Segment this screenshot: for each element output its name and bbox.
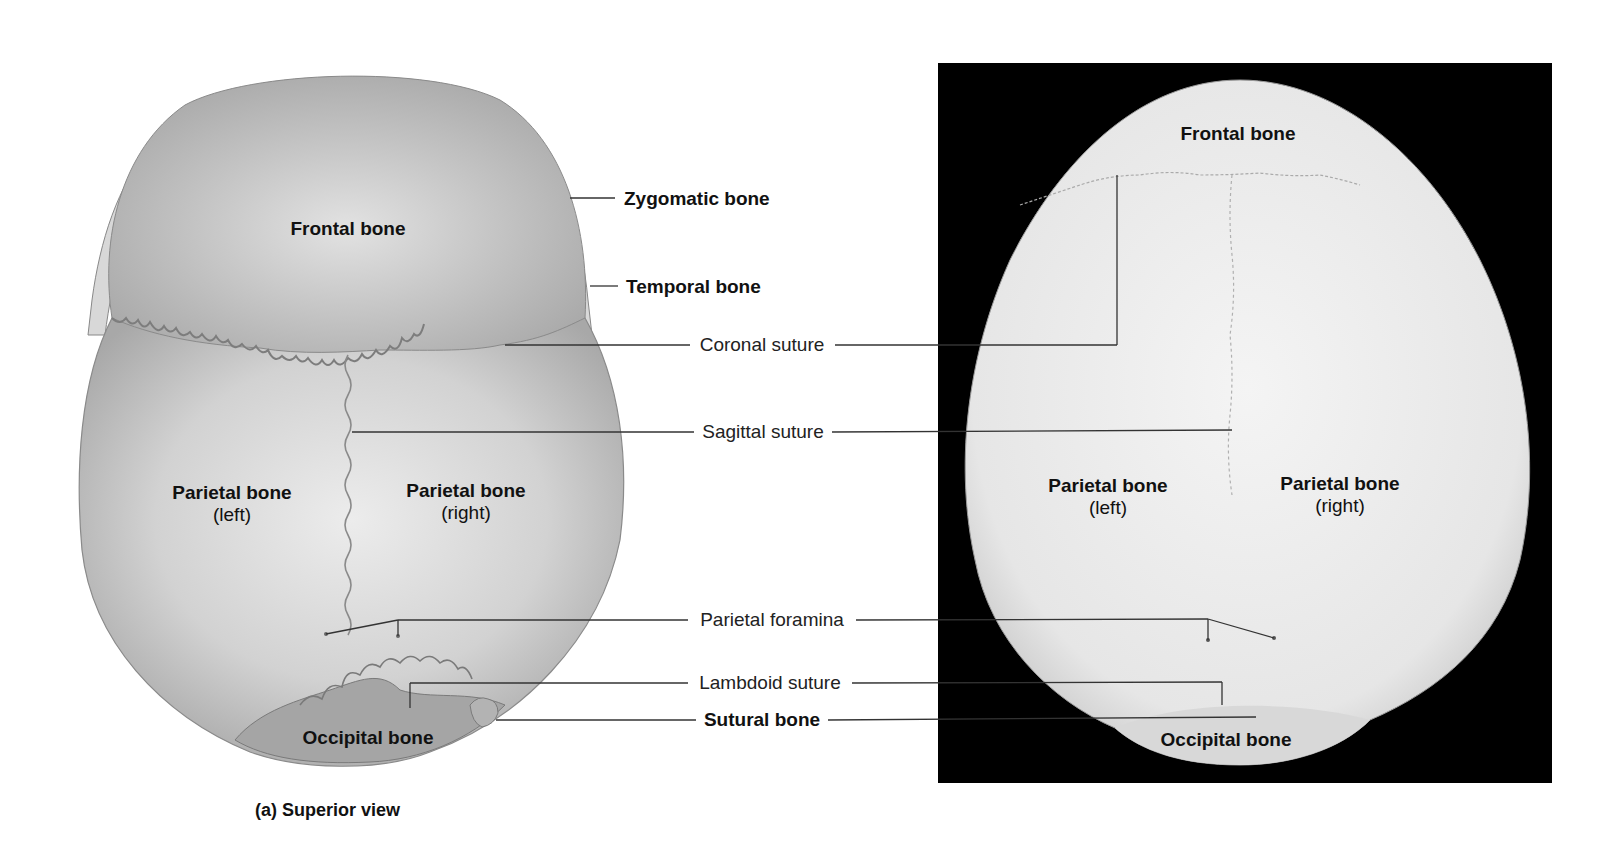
parietal-right-name: Parietal bone [406,480,525,501]
callout-temporal-bone: Temporal bone [626,276,761,298]
illustration-skull [79,76,623,766]
photo-label-frontal-bone: Frontal bone [1180,123,1295,145]
photo-parietal-left-name: Parietal bone [1048,475,1167,496]
figure-caption: (a) Superior view [255,800,400,821]
parietal-left-name: Parietal bone [172,482,291,503]
photo-label-parietal-right: Parietal bone (right) [1280,473,1399,517]
figure: Frontal bone Parietal bone (left) Pariet… [0,0,1615,848]
callout-sagittal-suture: Sagittal suture [698,421,827,443]
photo-parietal-right-name: Parietal bone [1280,473,1399,494]
photo-label-parietal-left: Parietal bone (left) [1048,475,1167,519]
illus-label-occipital-bone: Occipital bone [303,727,434,749]
photo-parietal-right-side: (right) [1280,495,1399,517]
callout-parietal-foramina: Parietal foramina [696,609,848,631]
illus-label-parietal-right: Parietal bone (right) [406,480,525,524]
photo-panel [938,63,1552,783]
photo-label-occipital-bone: Occipital bone [1161,729,1292,751]
illus-label-frontal-bone: Frontal bone [290,218,405,240]
parietal-right-side: (right) [406,502,525,524]
callout-sutural-bone: Sutural bone [700,709,824,731]
parietal-left-side: (left) [172,504,291,526]
illus-label-parietal-left: Parietal bone (left) [172,482,291,526]
callout-zygomatic-bone: Zygomatic bone [624,188,770,210]
photo-parietal-left-side: (left) [1048,497,1167,519]
callout-lambdoid-suture: Lambdoid suture [695,672,845,694]
callout-coronal-suture: Coronal suture [696,334,829,356]
